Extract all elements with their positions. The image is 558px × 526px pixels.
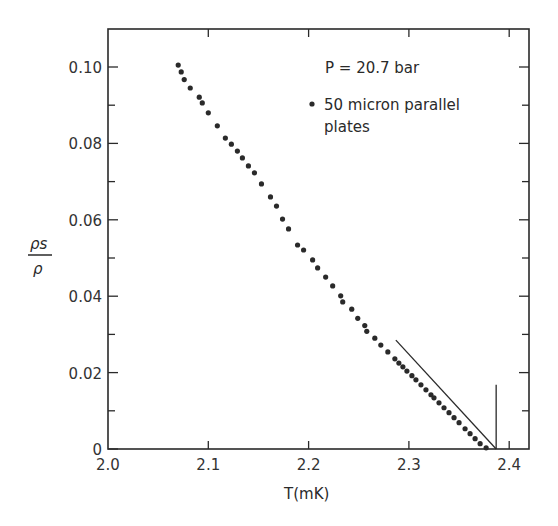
data-point: [206, 110, 211, 115]
data-point: [323, 275, 328, 280]
data-point: [182, 77, 187, 82]
data-point: [385, 349, 390, 354]
data-point: [197, 95, 202, 100]
data-point: [274, 203, 279, 208]
data-point: [364, 329, 369, 334]
y-tick-label: 0.06: [69, 212, 102, 230]
data-point: [472, 436, 477, 441]
data-point: [436, 400, 441, 405]
data-point: [362, 323, 367, 328]
data-point: [315, 265, 320, 270]
data-point: [446, 410, 451, 415]
data-point: [392, 356, 397, 361]
data-point: [338, 293, 343, 298]
y-tick-label: 0.04: [69, 288, 102, 306]
data-point: [441, 405, 446, 410]
data-point: [349, 307, 354, 312]
data-point: [484, 445, 489, 450]
data-point: [200, 100, 205, 105]
data-point: [286, 226, 291, 231]
data-point: [235, 148, 240, 153]
data-point: [259, 181, 264, 186]
legend-label-line2: plates: [324, 118, 370, 136]
x-axis-title: T(mK): [283, 485, 329, 503]
x-tick-label: 2.1: [196, 456, 220, 474]
data-point: [378, 342, 383, 347]
data-point: [268, 194, 273, 199]
y-axis-title-numerator: ρs: [30, 235, 48, 253]
data-point: [188, 85, 193, 90]
data-point: [301, 247, 306, 252]
data-point: [176, 62, 181, 67]
data-point: [340, 299, 345, 304]
legend-label-line1: 50 micron parallel: [324, 96, 460, 114]
data-point: [330, 283, 335, 288]
fit-line: [396, 340, 496, 449]
data-point: [396, 360, 401, 365]
data-point: [372, 336, 377, 341]
data-point: [310, 257, 315, 262]
data-point: [462, 426, 467, 431]
plot-border: [108, 29, 529, 449]
data-point: [418, 382, 423, 387]
y-tick-label: 0.02: [69, 365, 102, 383]
data-point: [215, 123, 220, 128]
plot-frame: [108, 29, 529, 449]
data-point: [252, 170, 257, 175]
data-point: [478, 441, 483, 446]
data-point: [413, 377, 418, 382]
data-point: [295, 242, 300, 247]
data-point: [280, 216, 285, 221]
data-point: [451, 415, 456, 420]
x-tick-label: 2.4: [497, 456, 521, 474]
data-point: [223, 135, 228, 140]
data-point: [400, 364, 405, 369]
data-point: [409, 373, 414, 378]
y-axis-title: ρs ρ: [28, 235, 52, 278]
superfluid-density-chart: 00.020.040.060.080.102.02.12.22.32.4 P =…: [0, 0, 558, 526]
data-point: [423, 387, 428, 392]
y-axis-title-denominator: ρ: [33, 260, 43, 278]
x-tick-label: 2.2: [297, 456, 321, 474]
data-point: [179, 69, 184, 74]
data-point: [456, 420, 461, 425]
legend-dot-icon: [309, 101, 314, 106]
pressure-annotation: P = 20.7 bar: [325, 59, 420, 77]
x-tick-label: 2.0: [96, 456, 120, 474]
data-point: [240, 155, 245, 160]
data-point: [246, 163, 251, 168]
data-point: [431, 395, 436, 400]
x-tick-label: 2.3: [397, 456, 421, 474]
y-tick-label: 0.08: [69, 135, 102, 153]
y-tick-label: 0.10: [69, 59, 102, 77]
data-point: [355, 316, 360, 321]
data-point: [467, 431, 472, 436]
data-point: [229, 142, 234, 147]
data-point: [404, 368, 409, 373]
